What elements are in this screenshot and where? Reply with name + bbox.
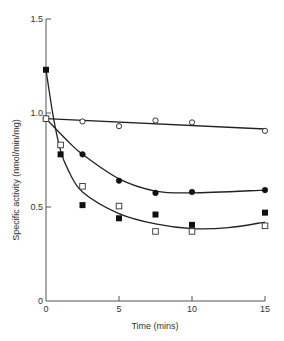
filled-circle-marker [116,178,122,184]
filled-circle-marker [80,152,86,158]
y-tick-label: 1.0 [30,108,43,118]
filled-square-marker [262,210,268,216]
chart: 051015 00.51.01.5 Time (mins) Specific a… [0,0,284,341]
y-ticks: 00.51.01.5 [30,14,51,306]
open-circle-marker [116,124,121,129]
filled-square-marker [58,151,64,157]
open-square-marker [189,229,195,235]
x-ticks: 051015 [43,296,270,314]
open-square-marker [116,203,122,209]
filled-square-marker [43,67,49,73]
open-circle-marker [153,118,158,123]
open-square-marker [58,142,64,148]
open-circle-marker [80,119,85,124]
filled-square-marker [80,202,86,208]
x-axis-label: Time (mins) [131,321,178,331]
y-tick-label: 0.5 [30,202,43,212]
axes [46,19,265,301]
y-tick-label: 0 [38,296,43,306]
x-tick-label: 5 [116,304,121,314]
filled-square-marker [116,215,122,221]
filled-circle-marker [262,187,268,193]
fit-curves [46,70,265,229]
filled-square-marker [189,222,195,228]
filled-circle-marker [153,190,159,196]
x-tick-label: 0 [43,304,48,314]
open-square-marker [153,229,159,235]
y-axis-label: Specific activity (nmol/min/mg) [11,119,21,241]
open-circle-marker [262,128,267,133]
filled-circle-marker [189,189,195,195]
steep-decay-from-filled-square-fit-line [46,70,265,229]
filled-square-marker [153,212,159,218]
open-circle-marker [189,120,194,125]
y-tick-label: 1.5 [30,14,43,24]
filled-circle-fit-line [46,119,265,193]
x-tick-label: 15 [260,304,270,314]
open-square-marker [80,184,86,190]
open-square-marker [262,223,268,229]
open-square-marker [43,116,49,122]
x-tick-label: 10 [187,304,197,314]
